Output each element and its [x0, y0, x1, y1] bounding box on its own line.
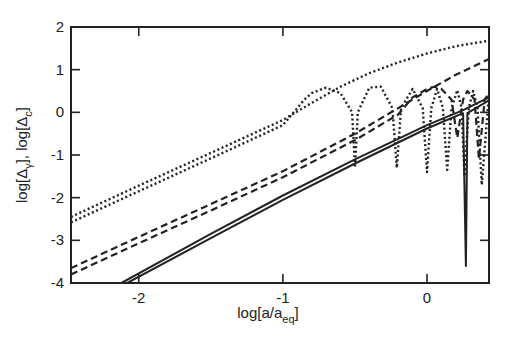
- x-tick-label: -2: [132, 289, 145, 306]
- y-tick-label: -3: [51, 231, 64, 248]
- series-layer: [71, 41, 489, 283]
- series-line-dashed: [71, 87, 489, 275]
- y-tick-label: 0: [56, 103, 64, 120]
- y-axis-title: log[Δγ], log[Δc]: [13, 107, 34, 203]
- y-tick-label: 2: [56, 18, 64, 35]
- x-axis-title: log[a/aeq]: [237, 304, 298, 325]
- y-tick-label: -2: [51, 189, 64, 206]
- x-tick-label: 0: [423, 289, 431, 306]
- y-tick-label: -1: [51, 146, 64, 163]
- series-line-solid: [127, 100, 489, 283]
- y-tick-label: -4: [51, 274, 64, 291]
- chart: -2-10-4-3-2-1012 log[a/aeq] log[Δγ], log…: [0, 0, 507, 347]
- y-tick-label: 1: [56, 61, 64, 78]
- ticks-layer: -2-10-4-3-2-1012: [51, 18, 489, 306]
